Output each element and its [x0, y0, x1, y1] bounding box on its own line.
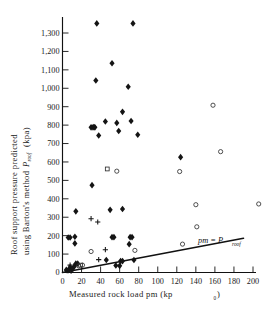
y-tick-label-300: 300 — [47, 213, 59, 222]
y-tick-label-1200: 1,200 — [41, 47, 59, 56]
x-axis-title-main: Measured rock load pm (kp — [69, 289, 173, 299]
y-tick-label-200: 200 — [47, 232, 59, 241]
x-tick-label-180: 180 — [228, 277, 240, 286]
y-tick-label-800: 800 — [47, 121, 59, 130]
x-tick-label-80: 80 — [135, 277, 143, 286]
y-tick-label-1300: 1,300 — [41, 29, 59, 38]
y-axis-title: Roof support pressure predicted using Ba… — [9, 127, 32, 255]
y-tick-label-600: 600 — [47, 158, 59, 167]
x-tick-label-40: 40 — [97, 277, 105, 286]
y-axis-title-line2-c: (kpa) — [21, 127, 31, 147]
x-tick-label-0: 0 — [60, 277, 64, 286]
x-tick-label-200: 200 — [247, 277, 259, 286]
chart-figure: Roof support pressure predicted using Ba… — [0, 0, 275, 316]
scatter-plot: Roof support pressure predicted using Ba… — [0, 0, 275, 316]
x-tick-label-100: 100 — [152, 277, 164, 286]
y-axis-title-line1: Roof support pressure predicted — [9, 134, 19, 255]
x-axis-title-tail: ) — [217, 289, 220, 299]
x-tick-label-160: 160 — [209, 277, 221, 286]
y-tick-label-1100: 1,100 — [41, 66, 59, 75]
x-tick-label-120: 120 — [171, 277, 183, 286]
annotation-text: pm = P — [197, 236, 223, 245]
y-axis-title-subscript: roof — [26, 151, 32, 161]
x-tick-label-140: 140 — [190, 277, 202, 286]
y-axis-title-line2-a: using Barton's method — [21, 170, 31, 255]
y-tick-label-0: 0 — [55, 268, 59, 277]
y-tick-label-700: 700 — [47, 139, 59, 148]
y-tick-label-1000: 1,000 — [41, 84, 59, 93]
y-tick-label-400: 400 — [47, 195, 59, 204]
x-tick-label-20: 20 — [77, 277, 85, 286]
annotation-subscript: roof — [232, 241, 242, 247]
y-tick-label-900: 900 — [47, 103, 59, 112]
y-tick-label-100: 100 — [47, 250, 59, 259]
y-tick-label-500: 500 — [47, 176, 59, 185]
x-tick-label-60: 60 — [116, 277, 124, 286]
